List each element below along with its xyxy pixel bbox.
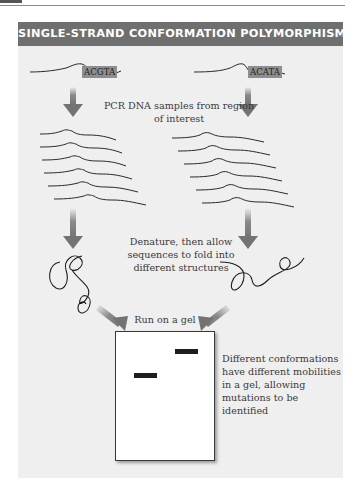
step-pcr-label: PCR DNA samples from region of interest [94, 99, 264, 125]
gel-band-right [175, 349, 198, 354]
arrow-down-icon [63, 208, 83, 249]
step-gel-label: Run on a gel [120, 313, 210, 326]
pcr-copies-left [40, 130, 146, 205]
step-denature-label: Denature, then allow sequences to fold i… [108, 235, 254, 274]
sequence-label-left: ACGTA [82, 66, 117, 78]
step-result-label: Different conformations have different m… [222, 352, 346, 417]
gel-band-left [134, 373, 157, 378]
sequence-label-right: ACATA [248, 66, 282, 78]
gel-box [115, 331, 215, 461]
pcr-copies-right [172, 133, 294, 207]
folded-strand-left [50, 256, 91, 313]
arrow-down-icon [63, 87, 83, 117]
